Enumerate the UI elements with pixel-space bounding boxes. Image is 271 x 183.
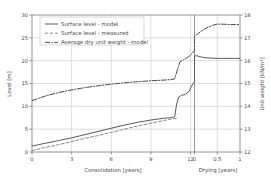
y-tick-label-left: 10 (21, 103, 28, 109)
x-tick-label-drying: 0.5 (213, 156, 221, 162)
x-axis-consolidation-label: Consolidation [years] (84, 167, 141, 174)
y-tick-label-right: 18 (244, 12, 251, 18)
y-tick-label-left: 25 (21, 35, 28, 41)
x-axis-drying-label: Drying [years] (199, 167, 238, 174)
chart-svg: 051015202530 12131415161718 036912 00.51… (0, 0, 271, 183)
y-tick-label-right: 12 (244, 149, 251, 155)
y-tick-label-left: 20 (21, 58, 28, 64)
y-axis-left-label: Level [m] (6, 71, 12, 96)
y-tick-label-left: 5 (25, 126, 28, 132)
x-tick-label-consolidation: 0 (30, 156, 33, 162)
x-tick-label-consolidation: 9 (149, 156, 152, 162)
x-tick-label-consolidation: 6 (110, 156, 113, 162)
y-tick-label-left: 30 (21, 12, 28, 18)
legend-label-2: Average dry unit weight - model (61, 39, 148, 46)
x-tick-label-drying: 0 (193, 156, 196, 162)
y-tick-label-right: 16 (244, 58, 251, 64)
y-tick-label-right: 14 (244, 103, 251, 109)
y-tick-label-right: 15 (244, 80, 251, 86)
y-tick-label-right: 13 (244, 126, 251, 132)
legend-label-1: Surface level - measured (61, 30, 128, 36)
legend-label-0: Surface level - model (61, 21, 118, 27)
chart-figure: 051015202530 12131415161718 036912 00.51… (0, 0, 271, 183)
x-tick-label-drying: 1 (238, 156, 241, 162)
y-tick-label-right: 17 (244, 35, 251, 41)
y-tick-label-left: 0 (25, 149, 28, 155)
x-tick-label-consolidation: 3 (70, 156, 73, 162)
y-axis-right-label: Unit weight [kN/m³] (259, 57, 266, 110)
y-tick-label-left: 15 (21, 80, 28, 86)
